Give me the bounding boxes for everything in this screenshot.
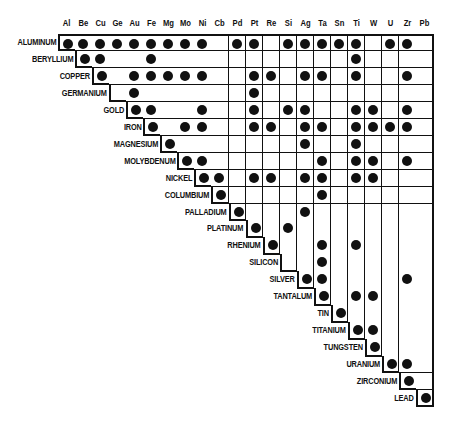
matrix-cell: [365, 51, 383, 68]
matrix-cell: [229, 119, 247, 136]
matrix-cell: [365, 322, 383, 339]
matrix-cell: [92, 34, 110, 51]
compatibility-dot: [402, 105, 412, 115]
matrix-cell: [314, 204, 332, 221]
column-label: Ge: [110, 18, 124, 28]
compatibility-dot: [95, 39, 105, 49]
compatibility-dot: [370, 342, 380, 352]
matrix-cell: [160, 34, 178, 51]
row-label: PALLADIUM: [185, 204, 226, 221]
matrix-cell: [365, 254, 383, 271]
compatibility-dot: [129, 88, 139, 98]
compatibility-dot: [351, 139, 361, 149]
compatibility-dot: [317, 122, 327, 132]
matrix-cell: [314, 136, 332, 153]
matrix-cell: [365, 153, 383, 170]
compatibility-dot: [251, 223, 261, 233]
matrix-cell: [263, 68, 281, 85]
matrix-cell: [263, 204, 281, 221]
matrix-cell: [416, 254, 434, 271]
matrix-cell: [177, 136, 195, 153]
matrix-cell: [75, 51, 93, 68]
matrix-cell: [160, 119, 178, 136]
matrix-cell: [331, 305, 349, 322]
row-label: URANIUM: [346, 356, 380, 373]
matrix-cell: [297, 271, 315, 288]
matrix-cell: [382, 254, 400, 271]
compatibility-dot: [402, 71, 412, 81]
compatibility-dot: [385, 122, 395, 132]
matrix-cell: [194, 153, 212, 170]
matrix-cell: [297, 51, 315, 68]
matrix-cell: [160, 85, 178, 102]
matrix-cell: [348, 288, 366, 305]
matrix-cell: [382, 102, 400, 119]
matrix-cell: [399, 339, 417, 356]
matrix-cell: [246, 34, 264, 51]
compatibility-dot: [402, 359, 412, 369]
compatibility-dot: [300, 105, 310, 115]
matrix-cell: [229, 34, 247, 51]
matrix-cell: [246, 204, 264, 221]
matrix-cell: [399, 187, 417, 204]
matrix-cell: [263, 187, 281, 204]
matrix-cell: [246, 51, 264, 68]
matrix-cell: [382, 204, 400, 221]
compatibility-dot: [336, 308, 346, 318]
compatibility-dot: [317, 71, 327, 81]
column-label: U: [383, 18, 397, 28]
matrix-cell: [109, 51, 127, 68]
compatibility-dot: [63, 39, 73, 49]
matrix-cell: [348, 153, 366, 170]
matrix-cell: [246, 102, 264, 119]
compatibility-dot: [317, 173, 327, 183]
matrix-cell: [177, 51, 195, 68]
matrix-cell: [263, 170, 281, 187]
matrix-cell: [314, 288, 332, 305]
compatibility-dot: [351, 105, 361, 115]
row-label: ZIRCONIUM: [357, 373, 397, 390]
matrix-cell: [365, 305, 383, 322]
matrix-cell: [263, 85, 281, 102]
matrix-cell: [109, 34, 127, 51]
matrix-cell: [331, 271, 349, 288]
matrix-cell: [348, 136, 366, 153]
compatibility-dot: [249, 122, 259, 132]
compatibility-dot: [283, 223, 293, 233]
row-label: IRON: [123, 119, 141, 136]
matrix-cell: [160, 51, 178, 68]
column-label: Ag: [298, 18, 312, 28]
matrix-cell: [126, 85, 144, 102]
matrix-cell: [348, 305, 366, 322]
matrix-cell: [331, 237, 349, 254]
matrix-cell: [246, 136, 264, 153]
matrix-cell: [416, 187, 434, 204]
matrix-cell: [348, 34, 366, 51]
row-label: GERMANIUM: [62, 85, 107, 102]
matrix-cell: [211, 85, 229, 102]
matrix-cell: [126, 102, 144, 119]
compatibility-dot: [112, 39, 122, 49]
matrix-cell: [331, 68, 349, 85]
matrix-cell: [143, 68, 161, 85]
matrix-cell: [297, 204, 315, 221]
compatibility-dot: [368, 173, 378, 183]
matrix-cell: [382, 237, 400, 254]
compatibility-dot: [146, 39, 156, 49]
matrix-cell: [382, 85, 400, 102]
row-label: PLATINUM: [207, 220, 243, 237]
compatibility-dot: [302, 274, 312, 284]
matrix-cell: [348, 170, 366, 187]
compatibility-dot: [197, 156, 207, 166]
matrix-cell: [365, 271, 383, 288]
matrix-cell: [297, 68, 315, 85]
matrix-cell: [331, 220, 349, 237]
matrix-cell: [331, 136, 349, 153]
matrix-cell: [399, 271, 417, 288]
matrix-cell: [382, 51, 400, 68]
compatibility-dot: [421, 393, 431, 403]
matrix-cell: [143, 102, 161, 119]
matrix-cell: [331, 170, 349, 187]
compatibility-dot: [249, 105, 259, 115]
compatibility-dot: [317, 190, 327, 200]
